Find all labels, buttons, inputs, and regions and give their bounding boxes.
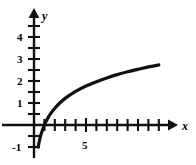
y-tick-label-2: 2 [17,75,23,87]
y-tick-label-4: 4 [17,31,23,43]
y-tick-label-3: 3 [17,53,23,65]
x-tick-label-5: 5 [82,139,88,151]
x-axis-label: x [181,119,188,133]
y-axis-label: y [40,9,48,23]
logarithmic-curve [38,65,159,147]
y-tick-label-neg1: -1 [12,141,21,153]
y-tick-label-1: 1 [17,97,23,109]
coordinate-plane-svg: x 5 y [0,0,196,165]
x-axis-arrowhead [168,120,178,131]
x-axis: x [2,119,188,133]
graph-figure: x 5 y [0,0,196,165]
y-axis-arrowhead [29,8,40,18]
